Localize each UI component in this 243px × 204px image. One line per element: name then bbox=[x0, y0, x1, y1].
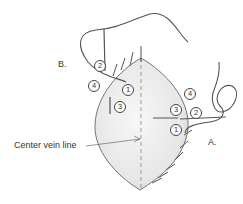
step-a-4: 4 bbox=[184, 88, 196, 100]
label-a: A. bbox=[208, 138, 217, 147]
step-a-2: 2 bbox=[190, 107, 202, 119]
center-vein-label: Center vein line bbox=[14, 141, 77, 150]
step-a-1: 1 bbox=[170, 124, 182, 136]
step-b-2: 2 bbox=[94, 60, 106, 72]
label-b: B. bbox=[58, 60, 67, 69]
step-a-3: 3 bbox=[170, 104, 182, 116]
step-b-3: 3 bbox=[114, 101, 126, 113]
leaf-stitching-diagram: B. 2 4 1 3 4 3 2 1 A. Center vein line bbox=[0, 0, 243, 204]
step-b-4: 4 bbox=[88, 80, 100, 92]
step-b-1: 1 bbox=[122, 84, 134, 96]
